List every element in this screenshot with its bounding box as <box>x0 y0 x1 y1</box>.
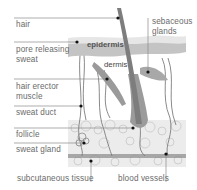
label-hair-erector-muscle: hair erector muscle <box>16 82 59 101</box>
label-hair: hair <box>16 20 30 30</box>
label-follicle: follicle <box>16 130 40 140</box>
label-sweat-gland: sweat gland <box>16 145 61 155</box>
label-epidermis: epidermis <box>87 40 124 49</box>
label-pore-releasing-sweat: pore releasing sweat <box>16 45 69 64</box>
label-blood-vessels: blood vessels <box>118 174 169 184</box>
label-sweat-duct: sweat duct <box>16 108 56 118</box>
label-sebaceous-glands: sebaceous glands <box>152 17 193 36</box>
skin-diagram: hair pore releasing sweat hair erector m… <box>0 0 197 190</box>
label-dermis: dermis <box>104 60 127 69</box>
label-subcutaneous-tissue: subcutaneous tissue <box>17 174 94 184</box>
sebaceous-gland <box>140 67 168 81</box>
